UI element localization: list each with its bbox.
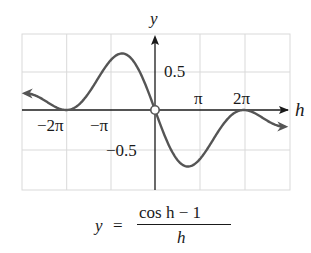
function-plot xyxy=(0,0,311,200)
formula-numerator: cos h − 1 xyxy=(139,203,201,223)
x-tick-2pi: 2π xyxy=(233,90,250,107)
function-formula: y = cos h − 1 h xyxy=(95,203,245,251)
y-tick-neg-0-5: −0.5 xyxy=(106,142,137,159)
formula-lhs: y xyxy=(95,216,103,236)
fraction-bar xyxy=(137,224,231,225)
x-axis-label: h xyxy=(295,100,305,119)
formula-denominator: h xyxy=(177,228,186,248)
open-point-at-origin xyxy=(151,106,159,114)
y-tick-0-5: 0.5 xyxy=(164,63,185,80)
formula-equals: = xyxy=(113,216,123,236)
x-tick-neg-2pi: −2π xyxy=(37,117,64,134)
x-tick-pi: π xyxy=(194,90,203,107)
x-tick-neg-pi: −π xyxy=(90,117,108,134)
y-axis-label: y xyxy=(150,10,158,27)
